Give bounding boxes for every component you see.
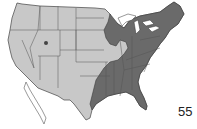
page-number: 55 [178,104,192,119]
us-range-map [0,0,197,129]
great-salt-lake [44,41,48,45]
